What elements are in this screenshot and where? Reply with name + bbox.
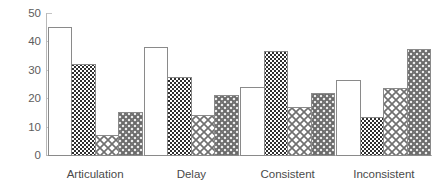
- y-tick-label-40: 40: [28, 35, 41, 47]
- bar[interactable]: [72, 65, 96, 156]
- bar[interactable]: [48, 28, 72, 156]
- bar-group: [241, 52, 335, 156]
- category-label: Delay: [177, 168, 207, 180]
- y-tick-label-20: 20: [28, 92, 41, 104]
- y-tick-label-50: 50: [28, 7, 41, 19]
- bar[interactable]: [144, 48, 168, 156]
- y-tick-label-10: 10: [28, 121, 41, 133]
- bar[interactable]: [337, 80, 361, 155]
- category-label-group: ArticulationDelayConsistentInconsistent: [67, 168, 416, 180]
- category-label: Articulation: [67, 168, 124, 180]
- bar[interactable]: [191, 116, 215, 156]
- bar[interactable]: [264, 52, 288, 156]
- bar[interactable]: [95, 136, 119, 156]
- category-label: Consistent: [260, 168, 315, 180]
- bar-group: [144, 48, 238, 156]
- bar[interactable]: [241, 87, 265, 155]
- bar[interactable]: [407, 49, 431, 156]
- y-tick-label-30: 30: [28, 64, 41, 76]
- bar-chart: 50 40 30 20 10 0 ArticulationDelayConsis…: [0, 0, 439, 194]
- bar[interactable]: [119, 113, 143, 156]
- category-label: Inconsistent: [353, 168, 415, 180]
- bar-group: [337, 49, 431, 156]
- bar[interactable]: [288, 107, 312, 155]
- y-tick-label-0: 0: [35, 149, 41, 161]
- bars-layer: [48, 28, 431, 156]
- bar[interactable]: [215, 96, 239, 156]
- chart-canvas: 50 40 30 20 10 0 ArticulationDelayConsis…: [0, 0, 439, 194]
- bar-group: [48, 28, 142, 156]
- bar[interactable]: [311, 93, 335, 155]
- bar[interactable]: [360, 117, 384, 155]
- bar[interactable]: [384, 89, 408, 156]
- bar[interactable]: [168, 77, 192, 155]
